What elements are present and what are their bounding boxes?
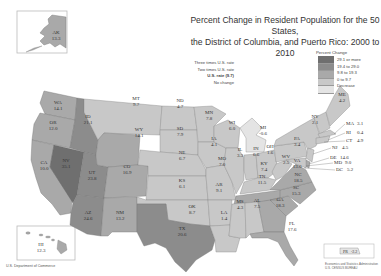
label-LA-abbr: LA — [221, 210, 228, 215]
label-IA-val: 4.1 — [211, 142, 218, 147]
legend-class-2: 9.8 to 19.3 — [337, 70, 357, 75]
label-MA-abbr: MA — [346, 121, 354, 126]
state-WI — [214, 120, 240, 148]
label-GA-val: 18.3 — [276, 203, 285, 208]
hawaii-inset-frame — [17, 226, 75, 260]
map-title-line2: the District of Columbia, and Puerto Ric… — [190, 37, 380, 59]
legend-ref-two-times: Two times U.S. rate — [197, 67, 234, 72]
label-AR-abbr: AR — [216, 182, 224, 187]
legend-swatch-0 — [318, 56, 334, 64]
label-AZ-val: 24.6 — [84, 216, 93, 221]
label-AL-abbr: AL — [254, 198, 261, 203]
label-AK-val: 13.3 — [52, 36, 61, 41]
label-IA-abbr: IA — [211, 136, 217, 141]
label-DC-abbr: DC — [336, 167, 344, 172]
label-MD-abbr: MD — [334, 160, 342, 165]
label-LA-val: 1.4 — [221, 216, 228, 221]
legend-swatch-4 — [318, 86, 334, 94]
label-OH-val: 1.6 — [267, 150, 274, 155]
label-NV-abbr: NV — [62, 158, 70, 163]
label-MS-val: 4.3 — [237, 205, 244, 210]
label-PA-abbr: PA — [294, 136, 300, 141]
state-WY — [96, 133, 140, 167]
label-NE-abbr: NE — [179, 150, 186, 155]
label-IL-abbr: IL — [238, 147, 243, 152]
legend-title: Percent Change — [316, 50, 347, 55]
label-MO-val: 7.0 — [219, 162, 226, 167]
label-SC-val: 15.3 — [292, 191, 301, 196]
state-KS — [146, 176, 208, 200]
label-AL-val: 7.5 — [254, 204, 261, 209]
label-MI-val: -0.6 — [259, 131, 267, 136]
label-NM-abbr: NM — [116, 210, 125, 215]
label-MT-val: 9.7 — [133, 102, 140, 107]
label-PR-val: -2.2 — [351, 249, 357, 254]
label-UT-abbr: UT — [89, 170, 96, 175]
label-SC-abbr: SC — [293, 185, 300, 190]
label-HI-val: 12.3 — [37, 248, 46, 253]
legend-swatches — [318, 56, 334, 94]
label-MA-val: 3.1 — [357, 121, 364, 126]
label-WY-abbr: WY — [135, 127, 144, 132]
label-CA-val: 10.0 — [40, 166, 49, 171]
label-NY-abbr: NY — [311, 114, 319, 119]
state-NJ — [306, 148, 314, 162]
label-NC-abbr: NC — [295, 172, 303, 177]
label-FL-val: 17.6 — [288, 227, 297, 232]
label-MD-val: 9.0 — [345, 160, 352, 165]
label-MN-val: 7.8 — [206, 116, 213, 121]
label-KY-val: 7.4 — [261, 167, 268, 172]
label-WY-val: 14.1 — [135, 133, 144, 138]
label-TN-abbr: TN — [259, 174, 266, 179]
label-CT-val: 4.9 — [357, 138, 364, 143]
legend-ref-three-times: Three times U.S. rate — [194, 60, 234, 65]
label-TX-abbr: TX — [179, 226, 186, 231]
label-SD-val: 7.9 — [177, 132, 184, 137]
label-RI-val: 0.4 — [357, 130, 364, 135]
label-NE-val: 6.7 — [179, 156, 186, 161]
label-MI-abbr: MI — [260, 125, 266, 130]
label-UT-val: 23.8 — [88, 176, 97, 181]
label-ME-abbr: ME — [338, 92, 346, 97]
source-credit: U.S. Department of Commerce — [6, 264, 55, 268]
label-OH-abbr: OH — [266, 144, 274, 149]
map-title-line1: Percent Change in Resident Population fo… — [190, 15, 380, 37]
label-HI-abbr: HI — [38, 242, 44, 247]
legend-swatch-2 — [318, 71, 334, 79]
label-FL-abbr: FL — [289, 221, 295, 226]
label-CT-abbr: CT — [346, 138, 352, 143]
legend-ref-no-change: No change — [214, 80, 234, 85]
label-SD-abbr: SD — [177, 126, 184, 131]
label-IN-val: 6.6 — [253, 152, 260, 157]
label-NJ-abbr: NJ — [332, 145, 338, 150]
label-AZ-abbr: AZ — [85, 210, 92, 215]
label-KY-abbr: KY — [260, 161, 268, 166]
label-MS-abbr: MS — [236, 199, 243, 204]
label-AK-abbr: AK — [52, 30, 60, 35]
state-HI — [26, 232, 67, 254]
label-VA-abbr: VA — [294, 158, 301, 163]
label-IL-val: 3.3 — [237, 153, 244, 158]
label-ND-abbr: ND — [176, 98, 184, 103]
legend-ref-us-rate: U.S. rate (9.7) — [207, 73, 234, 78]
legend-class-4: Decrease — [337, 83, 355, 88]
label-MO-abbr: MO — [218, 156, 226, 161]
label-MT-abbr: MT — [132, 96, 140, 101]
label-TN-val: 11.5 — [258, 180, 267, 185]
label-CA-abbr: CA — [41, 160, 48, 165]
legend-class-1: 19.4 to 29.0 — [337, 64, 359, 69]
label-CO-val: 16.9 — [123, 170, 132, 175]
label-IN-abbr: IN — [253, 146, 259, 151]
label-VA-val: 13.0 — [293, 164, 302, 169]
label-KS-abbr: KS — [179, 178, 186, 183]
label-KS-val: 6.1 — [179, 184, 186, 189]
agency-credit: Economics and Statistics Administration … — [325, 262, 380, 270]
label-ME-val: 4.2 — [339, 98, 346, 103]
label-PA-val: 3.4 — [294, 142, 301, 147]
legend-swatch-1 — [318, 64, 334, 72]
state-MT — [84, 99, 162, 140]
map-title: Percent Change in Resident Population fo… — [190, 15, 380, 59]
label-AR-val: 9.1 — [216, 188, 223, 193]
legend-class-0: 29.1 or more — [337, 57, 361, 62]
label-NV-val: 35.1 — [62, 164, 71, 169]
